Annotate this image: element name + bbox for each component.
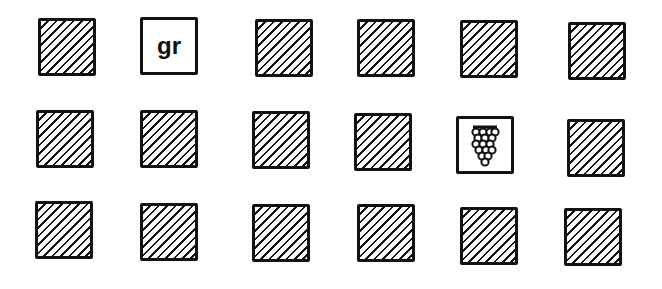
card-image[interactable] — [456, 116, 514, 174]
card-hidden[interactable] — [460, 20, 518, 78]
card-text[interactable]: gr — [140, 17, 198, 75]
card-hidden[interactable] — [357, 19, 415, 77]
card-hidden[interactable] — [255, 19, 313, 77]
card-hidden[interactable] — [35, 201, 93, 259]
card-hidden[interactable] — [354, 113, 412, 171]
card-hidden[interactable] — [36, 110, 94, 168]
card-hidden[interactable] — [460, 207, 518, 265]
card-hidden[interactable] — [568, 22, 626, 80]
card-hidden[interactable] — [252, 204, 310, 262]
grapes-icon — [467, 123, 503, 167]
card-hidden[interactable] — [140, 110, 198, 168]
card-hidden[interactable] — [564, 208, 622, 266]
card-hidden[interactable] — [140, 203, 198, 261]
card-hidden[interactable] — [38, 18, 96, 76]
card-hidden[interactable] — [567, 119, 625, 177]
card-hidden[interactable] — [357, 204, 415, 262]
card-hidden[interactable] — [252, 111, 310, 169]
card-label: gr — [157, 32, 181, 60]
